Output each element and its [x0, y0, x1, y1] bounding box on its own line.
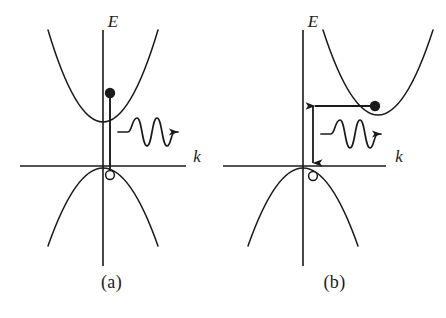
k-axis-label: k	[395, 147, 403, 166]
panel-a-caption: (a)	[0, 272, 223, 293]
panel-a-diagram: E k	[0, 0, 223, 318]
electron-marker	[105, 88, 115, 98]
band-diagram-figure: E k	[0, 0, 446, 318]
E-axis-label: E	[107, 12, 119, 31]
hole-marker	[309, 172, 318, 181]
k-axis-label: k	[193, 147, 201, 166]
panel-b-caption: (b)	[223, 272, 446, 293]
electron-marker	[370, 101, 380, 111]
panel-b-diagram: E k	[223, 0, 446, 318]
panel-b-indirect-transition: E k	[223, 0, 446, 318]
hole-marker	[106, 171, 115, 180]
photon-wavy-arrow	[321, 120, 381, 148]
photon-wavy-arrow	[118, 118, 178, 146]
E-axis-label: E	[307, 12, 319, 31]
panel-a-direct-transition: E k	[0, 0, 223, 318]
